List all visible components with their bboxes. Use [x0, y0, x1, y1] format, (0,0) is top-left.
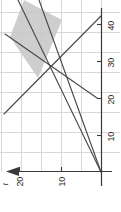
value-tick-label-20: 20 — [107, 93, 116, 105]
t-axis-ticks — [20, 167, 62, 172]
chart-figure: 40 30 20 10 20 10 t — [0, 0, 121, 212]
t-axis-label: t — [1, 178, 10, 186]
t-tick-label-20: 20 — [16, 175, 25, 187]
t-tick-label-10: 10 — [58, 175, 67, 187]
value-tick-label-40: 40 — [107, 19, 116, 31]
value-axis-ticks — [97, 25, 102, 136]
value-tick-label-30: 30 — [107, 56, 116, 68]
value-tick-label-10: 10 — [107, 130, 116, 142]
feasible-region-shade — [10, 0, 62, 78]
